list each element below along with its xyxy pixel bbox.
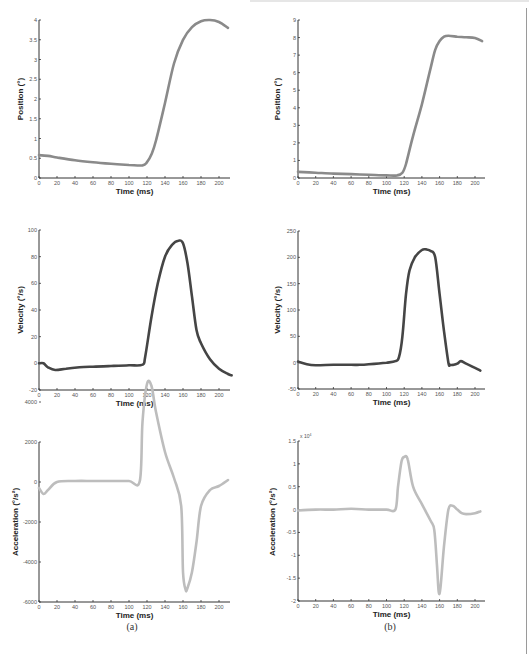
x-axis-label: Time (ms): [116, 187, 154, 196]
y-tick-label: 2.5: [29, 76, 37, 82]
x-tick-label: 80: [366, 391, 372, 397]
x-tick-label: 100: [124, 392, 133, 398]
x-tick-label: 20: [313, 603, 319, 609]
panel-caption: (a): [126, 621, 137, 633]
y-tick-label: 3: [34, 57, 37, 63]
x-tick-label: 180: [196, 604, 205, 610]
y-tick-label: 0: [293, 175, 296, 181]
figure-canvas: 02040608010012014016018020000.511.522.53…: [0, 0, 529, 654]
data-line: [298, 36, 482, 176]
y-tick-label: 0: [34, 360, 37, 366]
x-tick-label: 0: [37, 604, 40, 610]
y-tick-label: -4000: [23, 559, 37, 565]
data-line: [298, 249, 480, 370]
x-tick-label: 0: [296, 603, 299, 609]
x-tick-label: 120: [400, 391, 409, 397]
y-tick-label: 3: [293, 122, 296, 128]
y-axis-label: Position (°): [273, 78, 282, 121]
x-tick-label: 200: [470, 180, 479, 186]
x-tick-label: 20: [313, 180, 319, 186]
x-tick-label: 20: [313, 391, 319, 397]
x-tick-label: 80: [108, 392, 114, 398]
x-tick-label: 160: [178, 604, 187, 610]
data-line: [39, 240, 232, 375]
x-tick-label: 160: [178, 392, 187, 398]
y-tick-label: 100: [287, 307, 296, 313]
x-tick-label: 120: [400, 603, 409, 609]
x-tick-label: 200: [470, 603, 479, 609]
y-tick-label: 150: [287, 281, 296, 287]
y-tick-label: 8: [293, 35, 296, 41]
y-axis-label: Acceleration (°/s²): [268, 488, 277, 556]
x-tick-label: 60: [348, 603, 354, 609]
x-tick-label: 0: [37, 392, 40, 398]
data-line: [298, 456, 480, 594]
y-axis-label: Velocity (°/s): [273, 286, 282, 334]
y-tick-label: 80: [31, 254, 37, 260]
y-tick-label: 2000: [25, 439, 37, 445]
x-tick-label: 60: [90, 604, 96, 610]
y-tick-label: 7: [293, 52, 296, 58]
y-tick-label: 250: [287, 228, 296, 234]
y-tick-label: 100: [28, 227, 37, 233]
y-tick-label: 3.5: [29, 37, 37, 43]
x-tick-label: 20: [54, 604, 60, 610]
y-tick-label: 200: [287, 254, 296, 260]
x-tick-label: 40: [72, 180, 78, 186]
x-tick-label: 40: [330, 391, 336, 397]
y-tick-label: 0.5: [288, 484, 296, 490]
chart-a-velocity: 020406080100120140160180200-200204060801…: [16, 227, 232, 408]
x-tick-label: 160: [435, 603, 444, 609]
x-axis-label: Time (ms): [116, 399, 154, 408]
x-tick-label: 100: [382, 180, 391, 186]
y-tick-label: -1.5: [287, 575, 296, 581]
y-tick-label: 20: [31, 334, 37, 340]
x-tick-label: 180: [196, 180, 205, 186]
x-tick-label: 180: [453, 391, 462, 397]
y-tick-label: 6: [293, 70, 296, 76]
x-tick-label: 40: [330, 603, 336, 609]
x-tick-label: 100: [124, 604, 133, 610]
y-axis-label: Position (°): [16, 78, 25, 121]
y-tick-label: 9: [293, 17, 296, 23]
x-tick-label: 20: [54, 180, 60, 186]
data-line: [39, 20, 228, 166]
x-tick-label: 140: [160, 180, 169, 186]
x-tick-label: 120: [142, 180, 151, 186]
chart-b-position: 0204060801001201401601802000123456789Tim…: [273, 17, 485, 196]
y-tick-label: 0: [293, 360, 296, 366]
y-multiplier: x 104: [300, 433, 311, 439]
y-tick-label: 2: [293, 140, 296, 146]
y-tick-label: 4: [293, 105, 296, 111]
x-axis-label: Time (ms): [373, 398, 411, 407]
x-tick-label: 160: [435, 391, 444, 397]
x-tick-label: 120: [142, 604, 151, 610]
y-tick-label: 0: [293, 507, 296, 513]
y-tick-label: 2: [34, 96, 37, 102]
x-tick-label: 180: [453, 180, 462, 186]
x-tick-label: 60: [348, 391, 354, 397]
x-tick-label: 0: [37, 180, 40, 186]
y-tick-label: -2000: [23, 519, 37, 525]
panel-caption: (b): [384, 621, 396, 633]
y-tick-label: 1: [293, 461, 296, 467]
x-tick-label: 60: [348, 180, 354, 186]
y-tick-label: 0: [34, 479, 37, 485]
y-tick-label: 1: [293, 157, 296, 163]
x-tick-label: 0: [296, 180, 299, 186]
x-axis-label: Time (ms): [373, 610, 411, 619]
x-tick-label: 60: [90, 180, 96, 186]
x-tick-label: 0: [296, 391, 299, 397]
x-tick-label: 20: [54, 392, 60, 398]
x-tick-label: 200: [214, 392, 223, 398]
y-tick-label: 4: [34, 17, 37, 23]
y-tick-label: 50: [290, 333, 296, 339]
x-tick-label: 160: [178, 180, 187, 186]
x-tick-label: 140: [417, 603, 426, 609]
x-tick-label: 160: [435, 180, 444, 186]
y-tick-label: 4000: [25, 399, 37, 405]
x-tick-label: 100: [382, 391, 391, 397]
x-tick-label: 80: [366, 180, 372, 186]
chart-a-acceleration: 020406080100120140160180200-6000-4000-20…: [11, 381, 230, 620]
x-tick-label: 140: [417, 391, 426, 397]
